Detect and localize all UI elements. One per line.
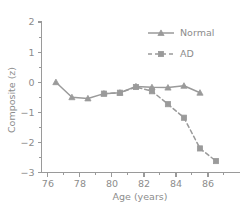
data-point-triangle	[53, 79, 59, 85]
data-point-square	[197, 146, 202, 151]
y-tick-label: 0	[28, 77, 34, 88]
chart-figure: −3−2−1012 767880828486 NormalAD Age (yea…	[0, 0, 251, 209]
data-series-layer	[53, 79, 219, 164]
legend-label-normal: Normal	[180, 27, 214, 38]
series-ad	[101, 84, 218, 163]
x-tick-label: 80	[106, 178, 118, 189]
x-tick-label: 86	[202, 178, 214, 189]
data-point-square	[158, 51, 163, 56]
data-point-square	[117, 90, 122, 95]
line-chart: −3−2−1012 767880828486 NormalAD Age (yea…	[0, 0, 251, 209]
legend-entry-ad: AD	[148, 48, 194, 59]
y-tick-label: 1	[28, 47, 34, 58]
data-point-square	[149, 89, 154, 94]
data-point-square	[165, 102, 170, 107]
data-point-square	[213, 158, 218, 163]
x-tick-label: 76	[42, 178, 54, 189]
legend-entry-normal: Normal	[148, 27, 214, 38]
legend-label-ad: AD	[180, 48, 194, 59]
y-tick-label: 2	[28, 16, 34, 27]
y-axis-title: Composite (z)	[6, 67, 17, 133]
x-axis-ticks: 767880828486	[42, 173, 224, 189]
chart-legend: NormalAD	[148, 27, 214, 59]
y-tick-label: −3	[20, 167, 34, 178]
data-point-square	[101, 91, 106, 96]
y-tick-label: −2	[20, 137, 34, 148]
data-point-square	[133, 84, 138, 89]
x-tick-label: 78	[74, 178, 86, 189]
x-axis-title: Age (years)	[113, 191, 168, 202]
y-tick-label: −1	[20, 107, 34, 118]
y-axis-ticks: −3−2−1012	[20, 16, 41, 178]
data-point-square	[181, 115, 186, 120]
x-tick-label: 82	[138, 178, 150, 189]
x-tick-label: 84	[170, 178, 182, 189]
